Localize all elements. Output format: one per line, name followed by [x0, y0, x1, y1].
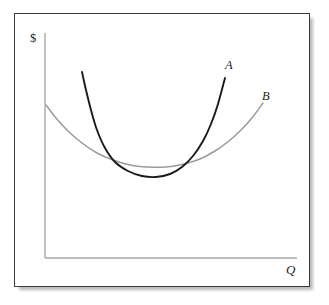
curve-a-label: A: [225, 59, 233, 72]
figure-frame: [14, 13, 310, 287]
figure-root: $ Q A B: [0, 0, 329, 305]
curve-b-label: B: [262, 90, 270, 103]
x-axis-label: Q: [286, 263, 295, 276]
y-axis-label: $: [30, 32, 36, 45]
